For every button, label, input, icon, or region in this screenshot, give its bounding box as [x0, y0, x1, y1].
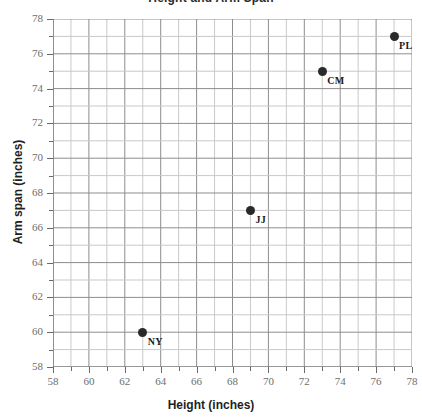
- y-tickmark: [47, 19, 53, 20]
- x-tick-label: 70: [255, 375, 281, 387]
- y-tickmark: [47, 54, 53, 55]
- y-tickmark: [49, 71, 53, 72]
- x-tickmark: [233, 367, 234, 373]
- x-tick-label: 58: [40, 375, 66, 387]
- x-tickmark: [161, 367, 162, 373]
- x-tickmark: [107, 367, 108, 371]
- data-point[interactable]: [390, 32, 399, 41]
- x-tickmark: [143, 367, 144, 371]
- y-tickmark: [49, 36, 53, 37]
- x-tickmark: [179, 367, 180, 371]
- y-tickmark: [49, 106, 53, 107]
- chart-title: Height and Arm Span: [0, 0, 422, 5]
- y-tickmark: [47, 263, 53, 264]
- y-tickmark: [47, 123, 53, 124]
- y-tick-label: 78: [17, 12, 43, 24]
- x-tick-label: 64: [148, 375, 174, 387]
- x-tickmark: [304, 367, 305, 373]
- x-tick-label: 74: [327, 375, 353, 387]
- y-tickmark: [47, 193, 53, 194]
- y-tickmark: [47, 89, 53, 90]
- x-tickmark: [125, 367, 126, 373]
- x-tickmark: [71, 367, 72, 371]
- y-tickmark: [49, 245, 53, 246]
- y-tick-label: 60: [17, 325, 43, 337]
- x-tick-label: 68: [220, 375, 246, 387]
- x-tickmark: [340, 367, 341, 373]
- y-tickmark: [49, 350, 53, 351]
- y-tickmark: [47, 332, 53, 333]
- y-tick-label: 58: [17, 360, 43, 372]
- data-point-label: NY: [148, 336, 163, 347]
- x-tickmark: [89, 367, 90, 373]
- x-tick-label: 76: [363, 375, 389, 387]
- y-tickmark: [49, 210, 53, 211]
- y-tick-label: 76: [17, 47, 43, 59]
- data-point-label: PL: [399, 40, 412, 51]
- y-tickmark: [49, 176, 53, 177]
- y-tickmark: [47, 228, 53, 229]
- data-point-label: JJ: [255, 214, 266, 225]
- x-tickmark: [268, 367, 269, 373]
- y-tick-label: 62: [17, 290, 43, 302]
- y-tickmark: [47, 297, 53, 298]
- y-tickmark: [47, 158, 53, 159]
- x-tickmark: [376, 367, 377, 373]
- y-tickmark: [49, 280, 53, 281]
- x-tick-label: 60: [76, 375, 102, 387]
- x-tick-label: 66: [184, 375, 210, 387]
- data-point[interactable]: [246, 206, 255, 215]
- grid-lines: [53, 19, 412, 367]
- y-axis-title: Arm span (inches): [11, 112, 25, 272]
- y-tickmark: [49, 141, 53, 142]
- x-tick-label: 72: [291, 375, 317, 387]
- data-point[interactable]: [138, 328, 147, 337]
- data-point[interactable]: [318, 67, 327, 76]
- x-tick-label: 62: [112, 375, 138, 387]
- x-axis-title: Height (inches): [0, 398, 422, 412]
- x-tickmark: [215, 367, 216, 371]
- x-tickmark: [412, 367, 413, 373]
- x-tickmark: [53, 367, 54, 373]
- x-tickmark: [197, 367, 198, 373]
- y-tick-label: 74: [17, 82, 43, 94]
- x-tick-label: 78: [399, 375, 422, 387]
- y-tickmark: [49, 315, 53, 316]
- x-tickmark: [286, 367, 287, 371]
- data-point-label: CM: [327, 75, 344, 86]
- x-tickmark: [358, 367, 359, 371]
- x-tickmark: [250, 367, 251, 371]
- x-tickmark: [322, 367, 323, 371]
- x-tickmark: [394, 367, 395, 371]
- plot-area: [53, 19, 412, 367]
- scatter-chart: Height and Arm Span 58606264666870727476…: [0, 0, 422, 418]
